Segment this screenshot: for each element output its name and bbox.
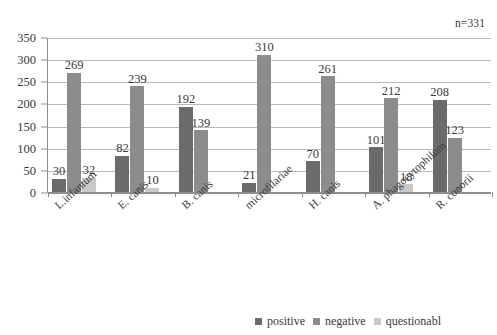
bar-negative: [257, 55, 271, 192]
bar-value-label: 208: [430, 86, 449, 99]
y-tick-label: 50: [24, 165, 37, 178]
legend-label: positive: [267, 314, 305, 329]
bar-group: 208123: [429, 38, 492, 192]
x-axis-category-labels: L.infantumE. canisB. canismicrofilariaeH…: [47, 193, 491, 293]
legend-swatch: [374, 318, 381, 325]
bar-value-label: 82: [116, 142, 129, 155]
bar-group: 70261: [302, 38, 365, 192]
bar-value-label: 192: [176, 93, 195, 106]
bar-value-label: 123: [445, 124, 464, 137]
legend-item-negative: negative: [313, 314, 374, 329]
y-tick-label: 150: [17, 120, 36, 133]
bar-negative: [67, 73, 81, 192]
legend-item-questionabl: questionabl: [374, 314, 449, 329]
bar-group: 192139: [175, 38, 238, 192]
y-tick-label: 350: [17, 32, 36, 45]
legend-item-positive: positive: [255, 314, 313, 329]
bar-value-label: 310: [255, 41, 274, 54]
legend-swatch: [255, 318, 262, 325]
bar-positive: [369, 147, 383, 192]
bar-positive: [115, 156, 129, 192]
plot-area: 3026932822391019213921310702611012121820…: [47, 38, 491, 193]
y-tick-label: 250: [17, 76, 36, 89]
bar-value-label: 30: [53, 165, 66, 178]
legend-label: questionabl: [386, 314, 441, 329]
sample-size-annotation: n=331: [455, 17, 485, 29]
x-tick-mark: [492, 192, 493, 197]
bar-value-label: 239: [128, 73, 147, 86]
y-tick-label: 300: [17, 54, 36, 67]
bar-value-label: 212: [382, 85, 401, 98]
y-tick-label: 0: [30, 187, 36, 200]
bar-negative: [130, 86, 144, 192]
bar-negative: [321, 76, 335, 192]
bar-group: 3026932: [48, 38, 111, 192]
bar-positive: [306, 161, 320, 192]
legend-label: negative: [325, 314, 366, 329]
bar-chart-figure: n=331 050100150200250300350 302693282239…: [0, 0, 497, 335]
bar-value-label: 21: [243, 169, 256, 182]
y-axis: 050100150200250300350: [0, 38, 47, 193]
legend-swatch: [313, 318, 320, 325]
chart-legend: positivenegativequestionabl: [255, 313, 497, 329]
bar-value-label: 139: [191, 117, 210, 130]
y-tick-label: 200: [17, 98, 36, 111]
bar-group: 8223910: [111, 38, 174, 192]
bar-value-label: 269: [65, 59, 84, 72]
bar-value-label: 101: [367, 134, 386, 147]
bar-value-label: 70: [306, 148, 319, 161]
y-tick-label: 100: [17, 142, 36, 155]
bar-value-label: 261: [318, 63, 337, 76]
